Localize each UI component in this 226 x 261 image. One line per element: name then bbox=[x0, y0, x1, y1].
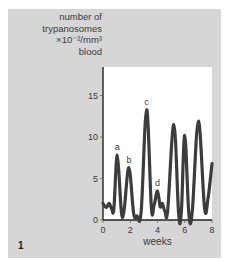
figure-number: 1 bbox=[18, 240, 24, 251]
x-tick-label: 6 bbox=[182, 225, 187, 235]
x-tick-label: 4 bbox=[155, 225, 160, 235]
x-tick-label: 2 bbox=[128, 225, 133, 235]
peak-label-b: b bbox=[126, 155, 131, 165]
y-tick-label: 10 bbox=[88, 132, 98, 142]
x-tick-label: 0 bbox=[100, 225, 105, 235]
x-axis-label: weeks bbox=[103, 236, 212, 247]
peak-label-d: d bbox=[155, 178, 160, 188]
peak-label-c: c bbox=[144, 97, 149, 107]
chart-plot: 05101502468 abcd bbox=[0, 0, 226, 261]
y-tick-label: 5 bbox=[93, 174, 98, 184]
x-tick-label: 8 bbox=[209, 225, 214, 235]
y-tick-label: 15 bbox=[88, 91, 98, 101]
peak-label-a: a bbox=[115, 142, 120, 152]
y-tick-label: 0 bbox=[93, 215, 98, 225]
